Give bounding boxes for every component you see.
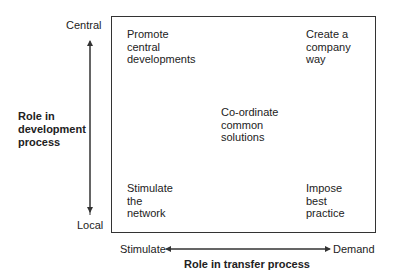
x-axis-right-label: Demand <box>333 243 375 256</box>
quadrant-bottom-left: Stimulate the network <box>127 182 173 220</box>
quadrant-bottom-right: Impose best practice <box>306 182 345 220</box>
quadrant-top-right: Create a company way <box>306 28 351 66</box>
y-axis-top-label: Central <box>66 19 101 32</box>
x-axis-left-label: Stimulate <box>120 243 166 256</box>
quadrant-top-left: Promote central developments <box>127 28 196 66</box>
quadrant-center: Co-ordinate common solutions <box>221 106 278 144</box>
x-axis-title: Role in transfer process <box>184 258 310 271</box>
y-axis-bottom-label: Local <box>77 219 103 232</box>
y-axis-title: Role in development process <box>18 110 86 149</box>
